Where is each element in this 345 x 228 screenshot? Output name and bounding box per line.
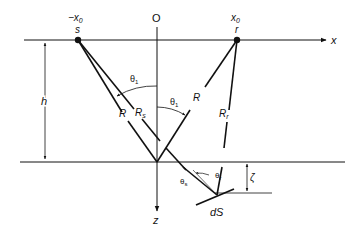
origin-label: O [152,12,161,24]
ray-Rs [78,40,134,109]
source-point [75,37,81,43]
theta-s-label: θs [180,177,187,187]
R-left-label: R [119,108,126,119]
Rr-label: Rr [219,108,229,120]
theta1-left-label: θ1 [130,74,139,85]
ray-Rs-lower2 [166,148,186,170]
receiver-label: r [235,24,239,35]
z-axis-label: z [152,214,159,226]
receiver-coord-label: x0 [230,12,240,24]
receiver-point [234,37,240,43]
diagram-canvas: O x z −x0 s x0 r h θ1 θ1 R Rs R Rr θs θr… [0,0,345,228]
R-right-label: R [193,92,200,103]
source-coord-label: −x0 [68,12,83,24]
theta1-right-arc [157,107,185,115]
Rs-label: Rs [135,107,146,119]
zeta-label: ζ [250,172,256,184]
ray-Rr-lower [224,122,227,148]
dS-label: dS [210,206,224,218]
ray-R-right-lower [157,110,190,162]
height-label: h [41,95,47,107]
surface-element [196,189,234,205]
theta-s-r-arc [196,173,209,175]
ray-R-left-lower [128,121,157,162]
x-axis-label: x [330,34,337,46]
theta1-right-label: θ1 [170,97,179,108]
geometry-figure: O x z −x0 s x0 r h θ1 θ1 R Rs R Rr θs θr… [0,0,345,228]
ray-s-to-dS [183,167,217,195]
source-label: s [75,24,80,35]
ray-R-left [78,40,122,112]
